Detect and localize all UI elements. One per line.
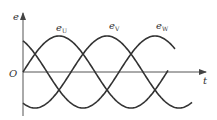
origin-label: O: [9, 68, 17, 79]
three-phase-diagram: e O t e U e V e W: [0, 0, 217, 120]
svg-text:V: V: [114, 25, 120, 32]
x-axis-label: t: [203, 75, 208, 86]
label-e-u: e U: [56, 22, 67, 34]
label-e-w: e W: [156, 20, 169, 32]
svg-text:U: U: [62, 27, 67, 34]
label-e-v: e V: [109, 20, 120, 32]
svg-text:W: W: [162, 25, 169, 32]
y-axis-label: e: [13, 11, 19, 22]
